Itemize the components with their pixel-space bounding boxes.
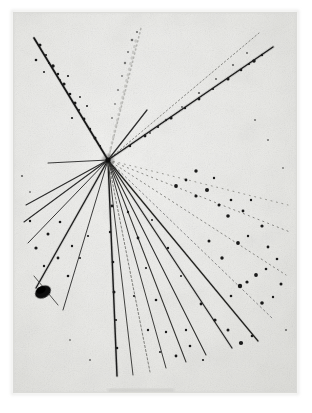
figure-root: Bubble chamber event photograph High-mul… bbox=[0, 0, 312, 413]
interaction-vertex bbox=[101, 153, 116, 168]
plate-canvas bbox=[0, 0, 312, 413]
plate-footer-bar bbox=[108, 389, 174, 392]
photographic-plate bbox=[0, 0, 312, 413]
